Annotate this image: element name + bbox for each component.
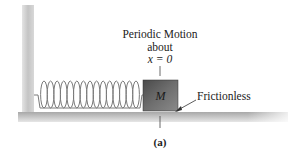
frictionless-label: Frictionless (197, 90, 251, 102)
spring (34, 81, 143, 108)
motion-label-line1: Periodic Motion (110, 28, 210, 40)
mass-label: M (143, 89, 178, 104)
floor (18, 112, 288, 122)
figure-caption: (a) (145, 136, 175, 148)
motion-label-line2: about (110, 41, 210, 53)
wall (22, 5, 34, 112)
motion-label-line3: x = 0 (110, 53, 210, 65)
